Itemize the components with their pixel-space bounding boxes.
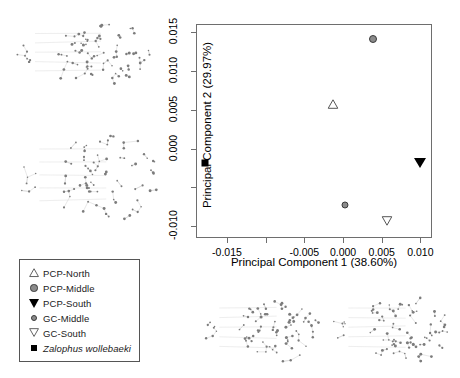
legend-marker-icon [25,311,43,325]
haplotype-network-middle-left [12,122,164,230]
legend-marker-icon [25,266,43,280]
y-axis-tick-label: 0.000 [167,131,179,165]
data-point-pcp-south [414,158,426,168]
haplotype-network-top-left [8,14,158,92]
data-point-pcp-middle [369,35,377,43]
haplotype-network-bottom-right [325,288,455,368]
pca-scatter-plot: -0.015-0.0050.0000.0050.010-0.0100.0000.… [155,6,455,276]
data-point-gc-middle [341,201,348,208]
y-axis-tick [191,71,196,72]
y-axis-tick [191,32,196,33]
x-axis-tick [266,238,267,243]
legend-marker-icon [25,281,43,295]
legend-marker-icon [25,296,43,310]
y-axis-tick [191,226,196,227]
y-axis-tick-label: -0.010 [167,208,179,242]
legend-item-gc-middle: GC-Middle [25,311,133,325]
legend: PCP-NorthPCP-MiddlePCP-SouthGC-MiddleGC-… [19,259,140,362]
legend-marker-icon [25,341,43,355]
legend-item-label: GC-Middle [43,313,89,324]
legend-item-label: PCP-Middle [43,283,95,294]
x-axis-title: Principal Component 1 (38.60%) [196,256,432,268]
y-axis-tick-label: 0.015 [167,14,179,48]
x-axis-tick [382,238,383,243]
haplotype-network-bottom-center [196,288,326,368]
legend-item-label: GC-South [43,328,86,339]
y-axis-tick [191,187,196,188]
data-point-pcp-north [327,99,338,109]
legend-item-zalophus-wollebaeki: Zalophus wollebaeki [25,341,133,355]
y-axis-tick-label: 0.010 [167,53,179,87]
legend-marker-icon [25,326,43,340]
legend-item-pcp-middle: PCP-Middle [25,281,133,295]
legend-item-label: Zalophus wollebaeki [43,343,131,354]
x-axis-tick [227,238,228,243]
data-point-gc-south [382,216,393,226]
x-axis-tick [304,238,305,243]
legend-item-label: PCP-North [43,268,90,279]
plot-frame [196,24,432,238]
y-axis-tick [191,149,196,150]
x-axis-tick [343,238,344,243]
legend-item-pcp-south: PCP-South [25,296,133,310]
y-axis-tick [191,110,196,111]
y-axis-tick-label: 0.005 [167,92,179,126]
y-axis-title: Principal Component 2 (29.97%) [201,18,213,232]
legend-item-pcp-north: PCP-North [25,266,133,280]
figure-canvas: -0.015-0.0050.0000.0050.010-0.0100.0000.… [0,0,460,378]
x-axis-tick [420,238,421,243]
legend-item-gc-south: GC-South [25,326,133,340]
legend-item-label: PCP-South [43,298,91,309]
